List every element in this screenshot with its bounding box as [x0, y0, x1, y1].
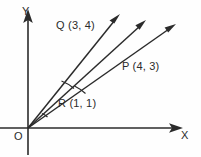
- ray-to-r: [28, 26, 140, 128]
- ray-q-arrowhead: [110, 14, 121, 24]
- x-axis-label: X: [181, 130, 188, 141]
- ray-to-q: [28, 20, 115, 128]
- ray-to-p: [28, 29, 169, 128]
- coordinate-diagram: Y X O Q (3, 4) P (4, 3) R (1, 1): [0, 0, 201, 157]
- diagram-canvas: [0, 0, 201, 157]
- origin-label: O: [14, 131, 23, 142]
- point-label-q: Q (3, 4): [56, 20, 95, 31]
- point-label-r: R (1, 1): [58, 98, 96, 109]
- point-label-p: P (4, 3): [122, 61, 159, 72]
- y-axis-label: Y: [22, 6, 29, 17]
